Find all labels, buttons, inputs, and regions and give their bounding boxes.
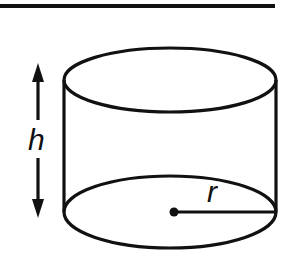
radius-label: r	[207, 175, 218, 208]
center-dot	[170, 208, 179, 217]
top-ellipse	[64, 48, 276, 112]
arrow-down-icon	[32, 199, 44, 218]
height-label: h	[28, 123, 45, 156]
cylinder-diagram: h r	[0, 0, 297, 270]
top-rule	[0, 4, 275, 8]
arrow-up-icon	[32, 63, 44, 82]
